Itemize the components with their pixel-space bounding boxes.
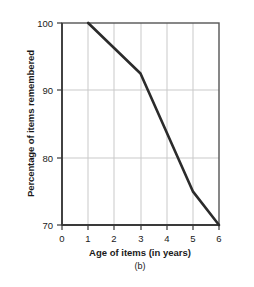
ytick-label-90: 90 — [42, 85, 53, 96]
xtick-label-1: 1 — [85, 233, 90, 244]
panel-caption: (b) — [40, 261, 240, 271]
xtick-label-4: 4 — [164, 233, 169, 244]
x-axis-title: Age of items (in years) — [40, 247, 240, 258]
xtick-label-3: 3 — [138, 233, 143, 244]
xtick-label-2: 2 — [111, 233, 116, 244]
line-chart-plot: 100 90 80 70 0 1 2 3 4 5 6 — [0, 0, 254, 287]
figure-panel-b: Percentage of items remembered 100 — [0, 0, 254, 287]
xtick-label-0: 0 — [59, 233, 64, 244]
ytick-label-70: 70 — [42, 220, 53, 231]
xtick-label-6: 6 — [216, 233, 221, 244]
xtick-label-5: 5 — [190, 233, 195, 244]
ytick-label-100: 100 — [37, 18, 53, 29]
ytick-label-80: 80 — [42, 153, 53, 164]
